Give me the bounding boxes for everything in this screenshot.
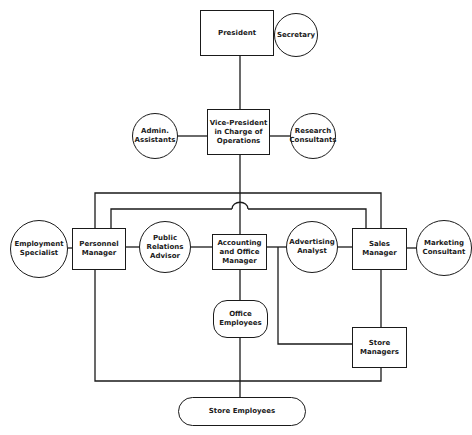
employment-specialist-node: Employment Specialist [10,220,68,278]
store-employees-label: Store Employees [209,407,275,416]
employment-specialist-label: Employment Specialist [14,240,63,258]
public-relations-advisor-node: Public Relations Advisor [139,221,191,273]
research-consultants-label: Research Consultants [289,127,336,145]
marketing-consultant-node: Marketing Consultant [416,220,472,276]
accounting-office-manager-node: Accounting and Office Manager [212,234,267,270]
secretary-label: Secretary [277,31,315,40]
admin-assistants-node: Admin. Assistants [132,113,178,159]
public-relations-advisor-label: Public Relations Advisor [147,234,184,261]
advertising-analyst-node: Advertising Analyst [286,221,338,273]
accounting-office-manager-label: Accounting and Office Manager [217,239,261,266]
secretary-node: Secretary [274,13,318,57]
president-label: President [218,29,256,38]
office-employees-node: Office Employees [213,300,268,338]
personnel-manager-label: Personnel Manager [79,240,118,258]
store-employees-node: Store Employees [178,397,306,426]
admin-assistants-label: Admin. Assistants [135,127,176,145]
vice-president-label: Vice-President in Charge of Operations [210,119,267,146]
store-managers-node: Store Managers [352,327,407,368]
store-managers-label: Store Managers [360,339,399,357]
connector-lines [0,0,472,435]
personnel-manager-node: Personnel Manager [72,228,126,270]
office-employees-label: Office Employees [219,310,262,328]
research-consultants-node: Research Consultants [290,113,336,159]
sales-manager-node: Sales Manager [352,228,407,270]
president-node: President [200,10,274,56]
advertising-analyst-label: Advertising Analyst [289,238,335,256]
vice-president-node: Vice-President in Charge of Operations [207,109,270,155]
sales-manager-label: Sales Manager [362,240,397,258]
marketing-consultant-label: Marketing Consultant [423,239,466,257]
